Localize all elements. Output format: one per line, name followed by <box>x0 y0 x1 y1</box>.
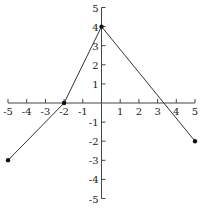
y-tick-label: -1 <box>89 117 99 128</box>
x-tick-label: 1 <box>117 106 123 117</box>
y-tick-label: 1 <box>92 79 98 90</box>
data-point <box>6 158 10 162</box>
x-tick-label: 2 <box>136 106 142 117</box>
y-tick-label: -4 <box>89 174 99 185</box>
x-tick-label: -3 <box>41 106 51 117</box>
x-tick-label: -5 <box>3 106 13 117</box>
x-tick-label: 5 <box>192 106 198 117</box>
data-point <box>99 24 103 28</box>
data-point <box>193 139 197 143</box>
x-tick-label: 3 <box>154 106 160 117</box>
y-tick-label: 4 <box>92 22 98 33</box>
y-tick-label: 3 <box>92 41 98 52</box>
y-tick-label: -5 <box>89 194 99 205</box>
y-tick-label: -2 <box>89 136 99 147</box>
x-tick-label: -1 <box>78 106 88 117</box>
graph: -5-4-3-2-11234554321-1-2-3-4-5 <box>0 0 201 208</box>
data-point <box>62 101 66 105</box>
y-tick-label: 5 <box>92 3 98 14</box>
y-tick-label: -3 <box>89 155 99 166</box>
x-tick-label: -4 <box>22 106 32 117</box>
y-tick-label: 2 <box>92 60 98 71</box>
x-tick-label: -2 <box>59 106 69 117</box>
